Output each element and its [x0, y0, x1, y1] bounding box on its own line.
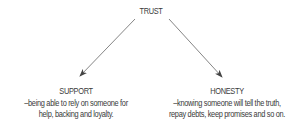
- node-trust: TRUST: [125, 6, 177, 18]
- node-honesty-desc-line-2: repay debts, keep promises and so on.: [147, 109, 307, 121]
- node-honesty: HONESTY –knowing someone will tell the t…: [147, 86, 307, 121]
- node-trust-label: TRUST: [125, 6, 177, 18]
- arrow-trust-to-honesty: [169, 19, 222, 77]
- node-honesty-desc-line-1: –knowing someone will tell the truth,: [147, 98, 307, 110]
- node-honesty-title: HONESTY: [147, 86, 307, 98]
- node-support: SUPPORT –being able to rely on someone f…: [0, 86, 153, 121]
- node-support-desc-line-1: –being able to rely on someone for: [0, 98, 153, 110]
- node-support-desc-line-2: help, backing and loyalty.: [0, 109, 153, 121]
- arrow-trust-to-support: [80, 19, 135, 76]
- node-support-title: SUPPORT: [0, 86, 153, 98]
